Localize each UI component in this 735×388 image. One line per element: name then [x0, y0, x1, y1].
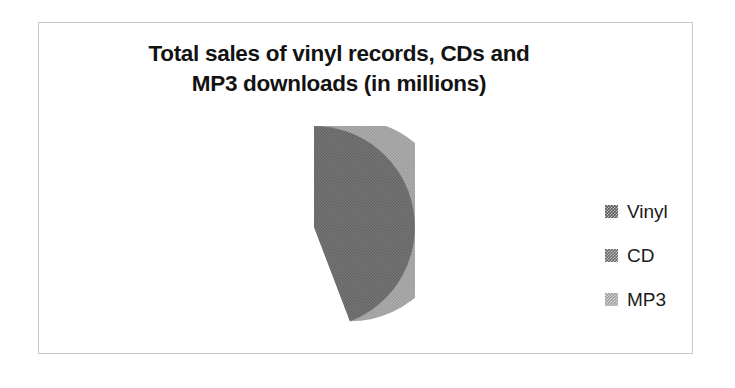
legend-swatch-mp3 — [605, 293, 618, 306]
pie-chart-plot-area — [39, 23, 599, 355]
pie-chart — [213, 126, 415, 328]
legend-item-vinyl[interactable]: Vinyl — [605, 189, 691, 233]
legend-item-mp3[interactable]: MP3 — [605, 277, 691, 321]
chart-legend: Vinyl CD MP3 — [605, 189, 691, 321]
legend-swatch-cd — [605, 249, 618, 262]
chart-frame: Total sales of vinyl records, CDs and MP… — [38, 22, 693, 354]
legend-label-cd: CD — [627, 246, 654, 265]
legend-item-cd[interactable]: CD — [605, 233, 691, 277]
legend-swatch-vinyl — [605, 205, 618, 218]
legend-label-mp3: MP3 — [627, 290, 666, 309]
legend-label-vinyl: Vinyl — [627, 202, 668, 221]
